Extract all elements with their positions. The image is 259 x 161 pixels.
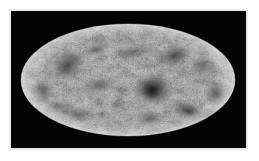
all-sky-map-image xyxy=(11,11,246,148)
figure-root xyxy=(0,0,259,161)
ellipse-limb-highlight xyxy=(21,24,235,136)
sky-map-panel xyxy=(11,11,246,148)
